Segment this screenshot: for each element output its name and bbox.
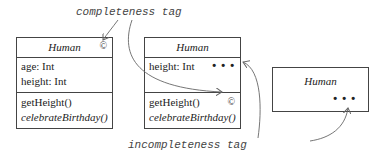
annotation-arrows xyxy=(0,0,384,163)
arrow-to-class3-ellipsis xyxy=(310,108,348,141)
arrow-to-class2-completeness xyxy=(128,20,222,92)
arrow-to-class1-completeness xyxy=(103,20,118,40)
arrow-to-class2-ellipsis xyxy=(243,62,260,138)
